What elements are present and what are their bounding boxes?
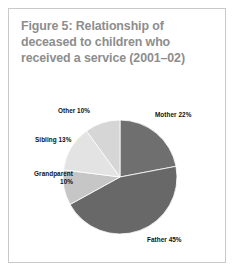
- figure-title-line-2: deceased to children who: [21, 34, 217, 50]
- pie-label-sibling: Sibling 13%: [35, 136, 71, 144]
- figure-container: Figure 5: Relationship of deceased to ch…: [8, 8, 226, 263]
- pie-label-grandparent-name: Grandparent: [15, 170, 73, 178]
- figure-title-line-1: Figure 5: Relationship of: [21, 18, 217, 34]
- pie-label-mother: Mother 22%: [155, 111, 191, 119]
- pie-label-grandparent-value: 10%: [15, 178, 73, 186]
- figure-title: Figure 5: Relationship of deceased to ch…: [21, 18, 217, 67]
- pie-label-grandparent: Grandparent 10%: [15, 170, 73, 186]
- figure-title-line-3: received a service (2001–02): [21, 50, 217, 66]
- pie-chart: Mother 22% Father 45% Other 10% Sibling …: [9, 69, 225, 262]
- pie-label-other: Other 10%: [58, 107, 90, 115]
- pie-slice-group: [63, 120, 177, 234]
- pie-chart-svg: [9, 69, 225, 262]
- pie-label-father: Father 45%: [147, 236, 182, 244]
